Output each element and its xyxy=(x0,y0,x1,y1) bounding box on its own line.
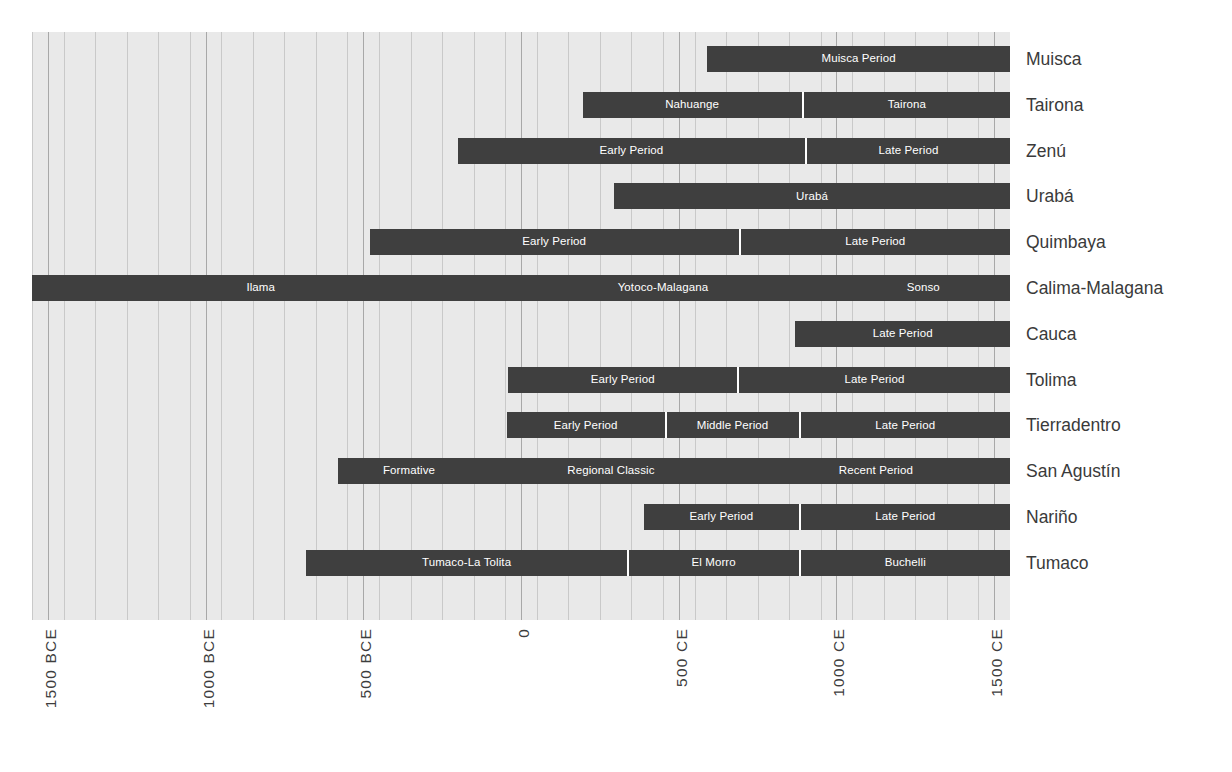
timeline-row: Urabá xyxy=(32,183,1010,209)
timeline-row: FormativeRegional ClassicRecent Period xyxy=(32,458,1010,484)
category-label-column: MuiscaTaironaZenúUrabáQuimbayaCalima-Mal… xyxy=(1026,32,1232,620)
x-axis-tick-label: 1500 BCE xyxy=(42,628,60,708)
x-axis-tick-label: 500 CE xyxy=(673,628,691,687)
timeline-segment-label: Early Period xyxy=(599,145,663,157)
category-label: Quimbaya xyxy=(1026,229,1106,255)
timeline-segment[interactable]: Late Period xyxy=(737,367,1010,393)
category-label: San Agustín xyxy=(1026,458,1120,484)
timeline-segment[interactable]: Formative xyxy=(338,458,480,484)
timeline-bar[interactable]: FormativeRegional ClassicRecent Period xyxy=(338,458,1010,484)
category-label: Zenú xyxy=(1026,138,1066,164)
timeline-segment-label: Tumaco-La Tolita xyxy=(422,557,511,569)
timeline-segment[interactable]: Yotoco-Malagana xyxy=(489,275,836,301)
timeline-segment-label: Urabá xyxy=(796,191,828,203)
timeline-row: Early PeriodLate Period xyxy=(32,229,1010,255)
timeline-segment[interactable]: Late Period xyxy=(739,229,1010,255)
timeline-row: Early PeriodLate Period xyxy=(32,138,1010,164)
timeline-row: Early PeriodLate Period xyxy=(32,367,1010,393)
x-axis-tick-label: 1000 BCE xyxy=(200,628,218,708)
timeline-segment-label: Late Period xyxy=(875,511,935,523)
timeline-segment[interactable]: Middle Period xyxy=(665,412,799,438)
timeline-segment[interactable]: Urabá xyxy=(614,183,1010,209)
timeline-segment-label: Late Period xyxy=(845,374,905,386)
timeline-bar[interactable]: Late Period xyxy=(795,321,1010,347)
timeline-bar[interactable]: Urabá xyxy=(614,183,1010,209)
timeline-segment-label: Late Period xyxy=(878,145,938,157)
timeline-plot-area: Muisca PeriodNahuangeTaironaEarly Period… xyxy=(32,32,1010,620)
x-axis-tick-label: 500 BCE xyxy=(357,628,375,698)
timeline-segment[interactable]: Tumaco-La Tolita xyxy=(306,550,626,576)
timeline-segment-label: Early Period xyxy=(554,420,618,432)
timeline-row: Early PeriodLate Period xyxy=(32,504,1010,530)
timeline-segment-label: Buchelli xyxy=(885,557,926,569)
timeline-segment[interactable]: Late Period xyxy=(799,504,1010,530)
timeline-segment[interactable]: Recent Period xyxy=(742,458,1010,484)
category-label: Tumaco xyxy=(1026,550,1089,576)
timeline-segment-label: Early Period xyxy=(689,511,753,523)
timeline-segment-label: Muisca Period xyxy=(821,53,895,65)
timeline-segment-label: Early Period xyxy=(591,374,655,386)
category-label: Nariño xyxy=(1026,504,1078,530)
timeline-segment-label: Early Period xyxy=(522,236,586,248)
timeline-row: Late Period xyxy=(32,321,1010,347)
timeline-segment-label: Late Period xyxy=(875,420,935,432)
category-label: Tairona xyxy=(1026,92,1083,118)
timeline-segment-label: Late Period xyxy=(873,328,933,340)
timeline-segment[interactable]: Regional Classic xyxy=(480,458,742,484)
timeline-bar[interactable]: Early PeriodMiddle PeriodLate Period xyxy=(507,412,1010,438)
timeline-segment[interactable]: Late Period xyxy=(805,138,1010,164)
timeline-row: NahuangeTairona xyxy=(32,92,1010,118)
timeline-segment[interactable]: Sonso xyxy=(836,275,1010,301)
timeline-bar[interactable]: IlamaYotoco-MalaganaSonso xyxy=(32,275,1010,301)
timeline-segment[interactable]: Tairona xyxy=(802,92,1010,118)
timeline-segment[interactable]: Buchelli xyxy=(799,550,1010,576)
timeline-segment-label: El Morro xyxy=(692,557,736,569)
timeline-segment-label: Middle Period xyxy=(697,420,769,432)
timeline-segment[interactable]: Early Period xyxy=(458,138,805,164)
timeline-bar[interactable]: NahuangeTairona xyxy=(583,92,1010,118)
timeline-bar[interactable]: Early PeriodLate Period xyxy=(458,138,1010,164)
timeline-segment[interactable]: Muisca Period xyxy=(707,46,1010,72)
timeline-segment-label: Nahuange xyxy=(665,99,719,111)
timeline-segment[interactable]: Late Period xyxy=(795,321,1010,347)
timeline-bar[interactable]: Tumaco-La TolitaEl MorroBuchelli xyxy=(306,550,1010,576)
category-label: Cauca xyxy=(1026,321,1077,347)
x-axis-tick-label: 1500 CE xyxy=(988,628,1006,697)
timeline-segment[interactable]: Early Period xyxy=(370,229,739,255)
timeline-segment[interactable]: El Morro xyxy=(627,550,799,576)
timeline-segment[interactable]: Early Period xyxy=(508,367,737,393)
timeline-segment[interactable]: Ilama xyxy=(32,275,489,301)
timeline-row: Muisca Period xyxy=(32,46,1010,72)
timeline-segment[interactable]: Early Period xyxy=(507,412,665,438)
timeline-bar[interactable]: Early PeriodLate Period xyxy=(508,367,1010,393)
timeline-segment-label: Ilama xyxy=(246,282,275,294)
x-axis-tick-labels: 1500 BCE1000 BCE500 BCE0500 CE1000 CE150… xyxy=(32,620,1010,772)
category-label: Calima-Malagana xyxy=(1026,275,1163,301)
timeline-bar[interactable]: Muisca Period xyxy=(707,46,1010,72)
timeline-segment-label: Sonso xyxy=(907,282,940,294)
timeline-row: Tumaco-La TolitaEl MorroBuchelli xyxy=(32,550,1010,576)
timeline-row: Early PeriodMiddle PeriodLate Period xyxy=(32,412,1010,438)
timeline-segment-label: Formative xyxy=(383,465,435,477)
category-label: Tierradentro xyxy=(1026,412,1121,438)
timeline-segment[interactable]: Late Period xyxy=(799,412,1010,438)
timeline-row: IlamaYotoco-MalaganaSonso xyxy=(32,275,1010,301)
timeline-bar[interactable]: Early PeriodLate Period xyxy=(370,229,1010,255)
timeline-segment[interactable]: Early Period xyxy=(644,504,799,530)
timeline-segment-label: Yotoco-Malagana xyxy=(618,282,709,294)
category-label: Tolima xyxy=(1026,367,1077,393)
category-label: Muisca xyxy=(1026,46,1081,72)
timeline-segment-label: Tairona xyxy=(888,99,926,111)
category-label: Urabá xyxy=(1026,183,1074,209)
timeline-segment-label: Recent Period xyxy=(839,465,913,477)
timeline-segment-label: Late Period xyxy=(845,236,905,248)
timeline-segment[interactable]: Nahuange xyxy=(583,92,802,118)
timeline-segment-label: Regional Classic xyxy=(567,465,654,477)
x-axis-tick-label: 1000 CE xyxy=(830,628,848,697)
x-axis-tick-label: 0 xyxy=(515,628,533,638)
timeline-bar[interactable]: Early PeriodLate Period xyxy=(644,504,1010,530)
